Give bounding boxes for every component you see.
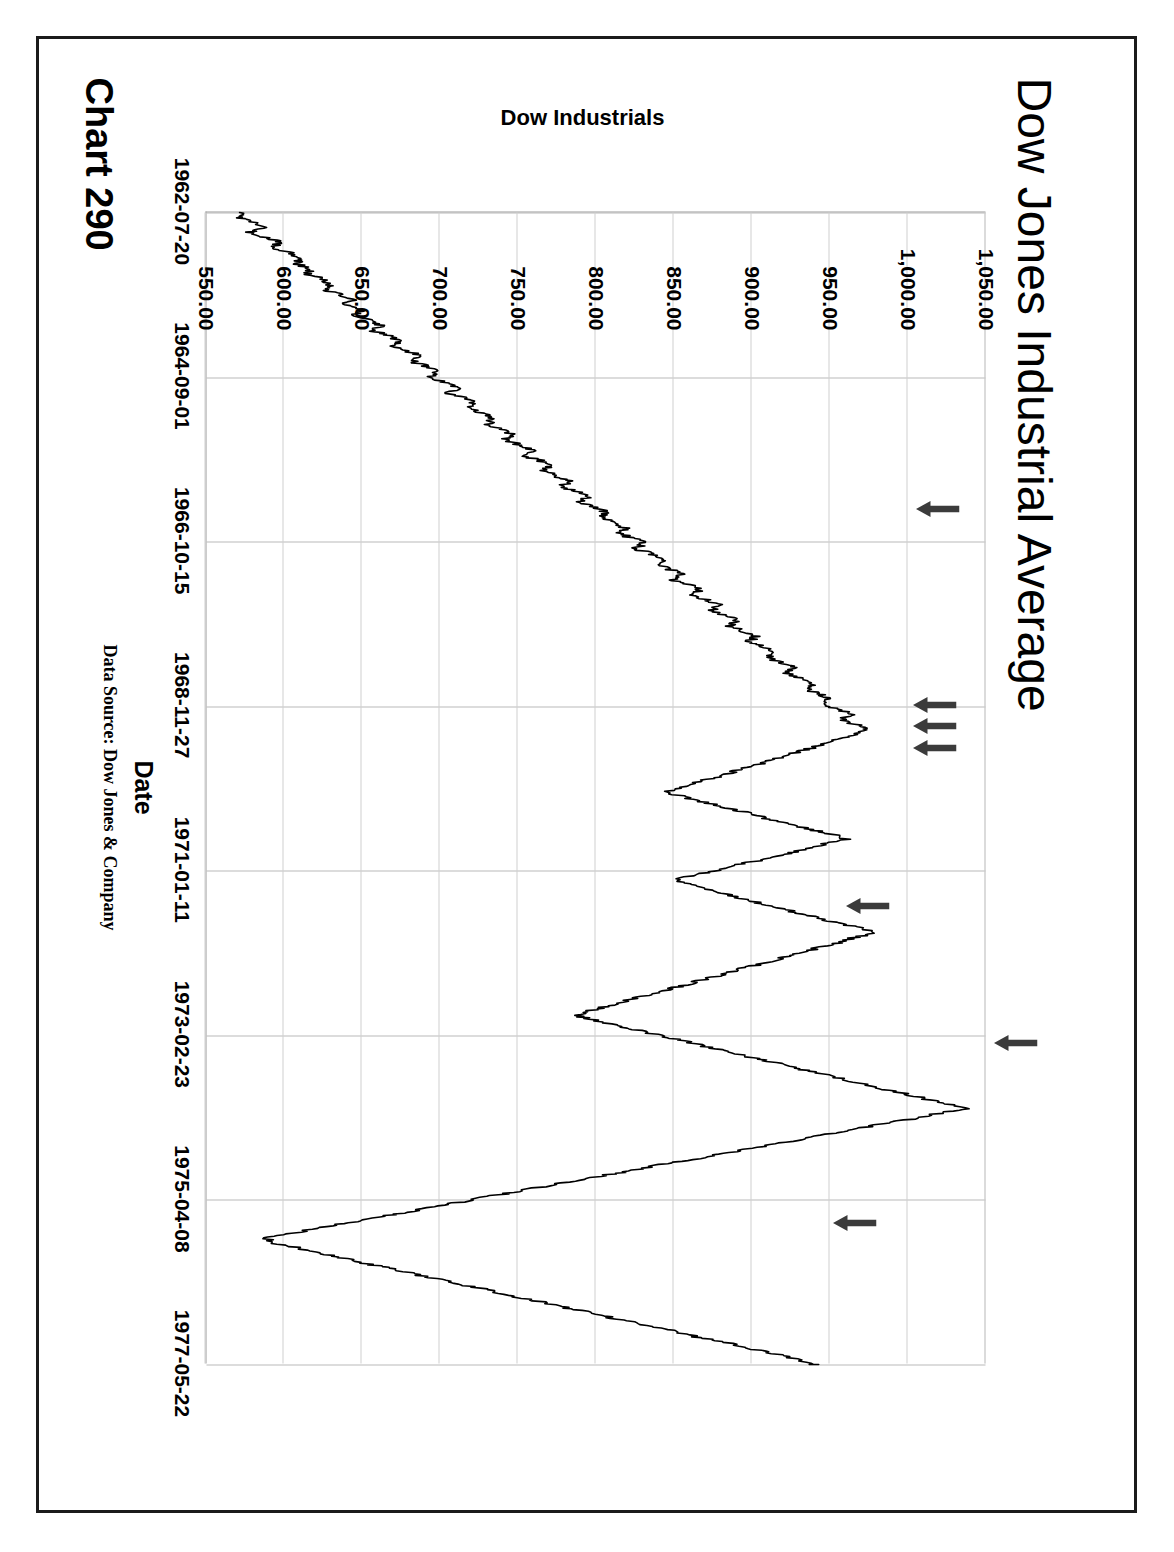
chart-canvas: Chart 290 Dow Jones Industrial Average 1… — [55, 64, 1120, 1489]
annotation-arrow-peak-1973 — [994, 1035, 1038, 1052]
annotation-arrow-peak-1976 — [833, 1214, 877, 1231]
x-tick-1964-09-01: 1964-09-01 — [170, 322, 194, 429]
x-tick-1962-07-20: 1962-07-20 — [170, 158, 194, 265]
y-tick-850: 850.00 — [662, 161, 686, 331]
annotation-arrow-peak-1968-a — [912, 696, 956, 713]
x-tick-1973-02-23: 1973-02-23 — [170, 981, 194, 1088]
y-tick-600: 600.00 — [272, 161, 296, 331]
y-tick-700: 700.00 — [428, 161, 452, 331]
chart-title: Dow Jones Industrial Average — [1007, 78, 1062, 712]
y-tick-1050: 1,050.00 — [974, 161, 998, 331]
y-axis-title: Dow Industrials — [433, 105, 733, 131]
series-dow-industrials — [206, 213, 986, 1365]
y-tick-550: 550.00 — [194, 161, 218, 331]
gridline-x-1977-05-22 — [207, 1365, 986, 1366]
y-tick-900: 900.00 — [740, 161, 764, 331]
y-tick-650: 650.00 — [350, 161, 374, 331]
y-tick-950: 950.00 — [818, 161, 842, 331]
data-source-note: Data Source: Dow Jones & Company — [99, 212, 120, 1364]
y-tick-800: 800.00 — [584, 161, 608, 331]
x-tick-1977-05-22: 1977-05-22 — [170, 1310, 194, 1417]
scanned-chart-page: Chart 290 Dow Jones Industrial Average 1… — [0, 0, 1174, 1552]
annotation-arrow-peak-1968-b — [912, 718, 956, 735]
y-tick-1000: 1,000.00 — [896, 161, 920, 331]
x-tick-1966-10-15: 1966-10-15 — [170, 487, 194, 594]
annotation-arrow-peak-1971 — [845, 898, 889, 915]
annotation-arrow-peak-1968-c — [912, 740, 956, 757]
rotated-chart-wrapper: Chart 290 Dow Jones Industrial Average 1… — [0, 0, 1174, 1552]
plot-area — [206, 212, 986, 1364]
y-tick-750: 750.00 — [506, 161, 530, 331]
x-tick-1968-11-27: 1968-11-27 — [170, 652, 194, 758]
x-tick-1975-04-08: 1975-04-08 — [170, 1145, 194, 1252]
x-tick-1971-01-11: 1971-01-11 — [170, 817, 194, 923]
annotation-arrow-peak-1966 — [916, 500, 960, 517]
x-axis-title: Date — [129, 212, 158, 1364]
